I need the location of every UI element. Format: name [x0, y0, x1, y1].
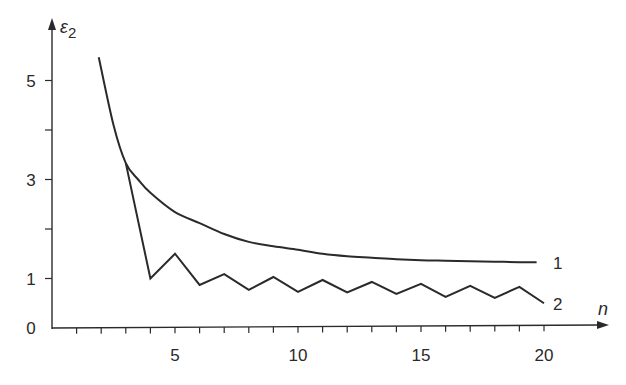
y-axis-arrow-icon: [48, 18, 56, 30]
series-2-label: 2: [553, 295, 562, 314]
x-tick-label: 10: [289, 346, 308, 365]
series-layer: [99, 57, 544, 303]
y-axis-label-subscript: 2: [68, 24, 76, 41]
series-2-line: [126, 163, 544, 303]
x-axis-label: n: [598, 299, 608, 319]
series-1-label: 1: [553, 254, 562, 273]
x-axis-line: [52, 325, 600, 328]
x-tick-label: 15: [412, 346, 431, 365]
x-tick-label: 20: [535, 346, 554, 365]
chart-canvas: 51015200135 ε2 n 12: [0, 0, 626, 385]
labels-layer: ε2 n 12: [60, 17, 608, 319]
y-tick-label: 1: [26, 270, 35, 289]
y-tick-label: 3: [26, 171, 35, 190]
x-tick-label: 5: [170, 346, 179, 365]
y-tick-label: 0: [26, 319, 35, 338]
y-tick-label: 5: [26, 72, 35, 91]
y-axis-label: ε2: [60, 17, 76, 41]
x-axis-arrow-icon: [597, 321, 609, 329]
chart: 51015200135 ε2 n 12: [0, 0, 626, 385]
series-1-line: [99, 57, 537, 262]
axis-ticks: 51015200135: [26, 72, 553, 366]
